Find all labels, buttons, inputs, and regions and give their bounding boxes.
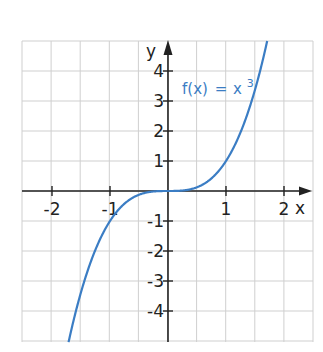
function-label-exponent: 3 bbox=[247, 77, 254, 90]
function-label-base: x bbox=[233, 80, 242, 98]
y-tick-label: -2 bbox=[147, 241, 164, 261]
x-tick-label: -2 bbox=[44, 199, 61, 219]
y-tick-label: 4 bbox=[153, 61, 164, 81]
x-axis-arrow-icon bbox=[299, 187, 312, 196]
x-tick-label: 1 bbox=[221, 199, 232, 219]
cubic-function-plot: -2-112-4-3-2-11234 y x f(x) = x 3 bbox=[0, 0, 323, 352]
x-tick-label: -1 bbox=[102, 199, 119, 219]
y-tick-label: -1 bbox=[147, 211, 164, 231]
y-tick-label: -3 bbox=[147, 271, 164, 291]
function-label: f(x) = x 3 bbox=[182, 77, 254, 98]
function-label-equals: = bbox=[215, 80, 228, 98]
y-tick-label: 1 bbox=[153, 151, 164, 171]
y-tick-label: 2 bbox=[153, 121, 164, 141]
function-label-name: f(x) bbox=[182, 80, 208, 98]
x-tick-label: 2 bbox=[279, 199, 290, 219]
y-axis-arrow-icon bbox=[164, 40, 173, 55]
y-tick-label: -4 bbox=[147, 301, 164, 321]
y-tick-label: 3 bbox=[153, 91, 164, 111]
y-axis-label: y bbox=[146, 41, 156, 61]
x-axis-label: x bbox=[295, 198, 305, 218]
